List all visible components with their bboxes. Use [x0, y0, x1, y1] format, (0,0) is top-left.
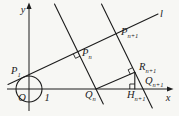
origin-label: O: [18, 92, 26, 103]
x-axis-label: x: [165, 92, 171, 103]
math-diagram: y x O 1 l P1 Pn Pn+1 Qn Qn+1 Rn+1 Hn+1: [0, 0, 179, 116]
segment-qn-rn1: [96, 72, 135, 89]
y-axis-label: y: [20, 4, 26, 15]
point-qn-label: Qn: [85, 89, 96, 102]
point-pn-label: Pn: [81, 47, 92, 60]
point-p1-label: P1: [10, 65, 21, 78]
x-axis-arrow-icon: [167, 86, 174, 91]
point-hn1-label: Hn+1: [126, 89, 145, 102]
y-axis-arrow-icon: [26, 3, 31, 10]
point-qn1-label: Qn+1: [145, 75, 163, 88]
line-l-label: l: [160, 8, 163, 19]
point-rn1-label: Rn+1: [138, 61, 156, 74]
unit-tick-label: 1: [44, 92, 49, 103]
